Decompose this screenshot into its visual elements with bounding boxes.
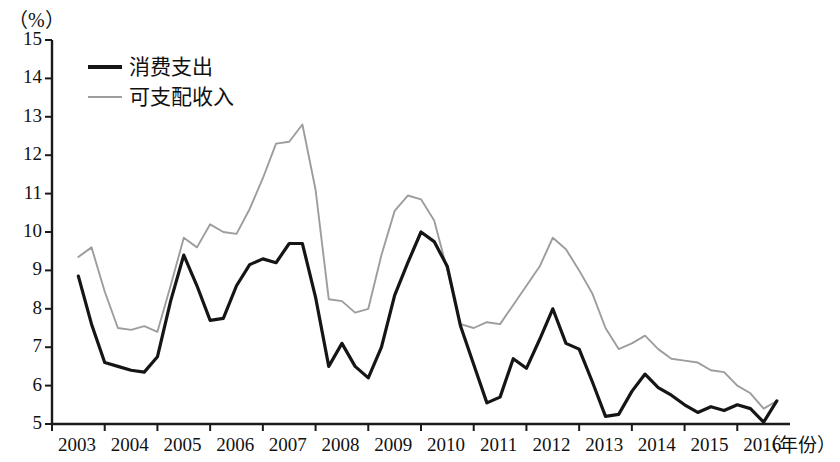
x-axis-tick-label: 2012 (521, 434, 581, 456)
data-series-layer (78, 124, 776, 422)
x-axis-tick-label: 2010 (416, 434, 476, 456)
data-line-income (78, 124, 776, 408)
y-axis-tick-label: 7 (8, 335, 42, 357)
x-axis-tick-label: 2014 (627, 434, 687, 456)
legend-item-expenditure: 消费支出 (88, 52, 308, 82)
x-axis-title: （年份） (760, 430, 836, 457)
x-axis-tick-label: 2006 (205, 434, 265, 456)
y-axis-tick-label: 6 (8, 374, 42, 396)
x-axis-tick-label: 2008 (311, 434, 371, 456)
x-axis-tick-label: 2009 (363, 434, 423, 456)
x-axis-tick-label: 2015 (680, 434, 740, 456)
legend-label-income: 可支配收入 (129, 87, 234, 108)
legend-line-icon-expenditure (88, 65, 122, 69)
x-axis-tick-label: 2013 (574, 434, 634, 456)
y-axis-tick-label: 10 (8, 220, 42, 242)
y-axis-tick-label: 13 (8, 105, 42, 127)
y-axis-tick-label: 11 (8, 182, 42, 204)
chart-container: （%） 56789101112131415 200320042005200620… (0, 0, 840, 462)
y-axis-tick-label: 14 (8, 66, 42, 88)
legend-label-expenditure: 消费支出 (129, 57, 213, 78)
y-axis-tick-label: 15 (8, 28, 42, 50)
y-axis-tick-label: 5 (8, 412, 42, 434)
legend-item-income: 可支配收入 (88, 82, 308, 112)
x-axis-tick-label: 2007 (258, 434, 318, 456)
x-axis-tick-label: 2003 (47, 434, 107, 456)
x-axis-tick-label: 2005 (152, 434, 212, 456)
data-line-expenditure (78, 232, 776, 422)
legend-line-icon-income (88, 96, 122, 98)
y-axis-tick-label: 8 (8, 297, 42, 319)
y-axis-tick-label: 9 (8, 258, 42, 280)
x-axis-tick-label: 2011 (469, 434, 529, 456)
chart-legend: 消费支出 可支配收入 (88, 52, 308, 112)
y-axis-tick-label: 12 (8, 143, 42, 165)
x-axis-tick-label: 2004 (100, 434, 160, 456)
